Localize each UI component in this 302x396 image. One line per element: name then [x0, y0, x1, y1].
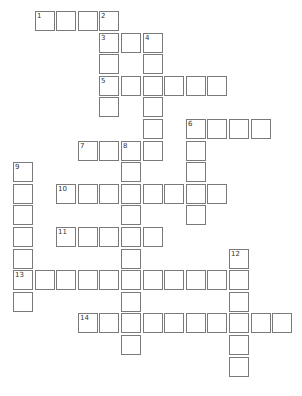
crossword-cell[interactable]	[164, 184, 184, 204]
clue-number: 4	[145, 34, 149, 42]
crossword-cell[interactable]	[13, 249, 33, 269]
crossword-cell[interactable]	[143, 184, 163, 204]
crossword-cell[interactable]	[56, 11, 76, 31]
crossword-cell[interactable]	[251, 119, 271, 139]
crossword-cell[interactable]	[207, 119, 227, 139]
crossword-cell[interactable]	[229, 119, 249, 139]
crossword-cell[interactable]	[143, 97, 163, 117]
clue-number: 14	[80, 314, 89, 322]
crossword-cell[interactable]	[99, 227, 119, 247]
clue-number: 3	[101, 34, 105, 42]
crossword-cell[interactable]: 3	[99, 33, 119, 53]
crossword-cell[interactable]	[186, 270, 206, 290]
crossword-cell[interactable]	[143, 54, 163, 74]
clue-number: 2	[101, 12, 105, 20]
crossword-cell[interactable]	[13, 292, 33, 312]
crossword-cell[interactable]	[164, 313, 184, 333]
crossword-cell[interactable]	[56, 270, 76, 290]
crossword-cell[interactable]	[143, 227, 163, 247]
crossword-cell[interactable]	[121, 270, 141, 290]
clue-number: 5	[101, 77, 105, 85]
crossword-cell[interactable]	[186, 141, 206, 161]
crossword-cell[interactable]	[164, 76, 184, 96]
crossword-cell[interactable]	[143, 141, 163, 161]
crossword-cell[interactable]	[121, 162, 141, 182]
crossword-cell[interactable]	[99, 184, 119, 204]
crossword-cell[interactable]: 4	[143, 33, 163, 53]
crossword-cell[interactable]	[99, 141, 119, 161]
crossword-cell[interactable]: 1	[35, 11, 55, 31]
crossword-cell[interactable]	[143, 119, 163, 139]
clue-number: 6	[188, 120, 192, 128]
crossword-cell[interactable]	[121, 76, 141, 96]
crossword-cell[interactable]: 2	[99, 11, 119, 31]
crossword-cell[interactable]: 10	[56, 184, 76, 204]
crossword-cell[interactable]	[229, 313, 249, 333]
crossword-cell[interactable]	[121, 313, 141, 333]
crossword-cell[interactable]	[99, 270, 119, 290]
crossword-cell[interactable]	[143, 270, 163, 290]
clue-number: 7	[80, 142, 84, 150]
crossword-grid: 1234567891011121314	[0, 0, 302, 396]
crossword-cell[interactable]	[121, 292, 141, 312]
crossword-cell[interactable]	[229, 292, 249, 312]
crossword-cell[interactable]	[207, 313, 227, 333]
clue-number: 12	[231, 250, 240, 258]
crossword-cell[interactable]	[121, 33, 141, 53]
crossword-cell[interactable]	[78, 227, 98, 247]
crossword-cell[interactable]: 13	[13, 270, 33, 290]
crossword-cell[interactable]	[121, 205, 141, 225]
crossword-cell[interactable]	[186, 162, 206, 182]
clue-number: 1	[37, 12, 41, 20]
crossword-cell[interactable]	[186, 205, 206, 225]
crossword-cell[interactable]	[186, 76, 206, 96]
crossword-cell[interactable]: 11	[56, 227, 76, 247]
crossword-cell[interactable]: 12	[229, 249, 249, 269]
crossword-cell[interactable]	[251, 313, 271, 333]
crossword-cell[interactable]: 6	[186, 119, 206, 139]
crossword-cell[interactable]	[272, 313, 292, 333]
crossword-cell[interactable]	[229, 270, 249, 290]
clue-number: 9	[15, 163, 19, 171]
crossword-cell[interactable]	[13, 205, 33, 225]
crossword-cell[interactable]	[186, 184, 206, 204]
crossword-cell[interactable]: 7	[78, 141, 98, 161]
crossword-cell[interactable]	[35, 270, 55, 290]
crossword-cell[interactable]	[13, 184, 33, 204]
crossword-cell[interactable]	[99, 97, 119, 117]
crossword-cell[interactable]	[121, 335, 141, 355]
crossword-cell[interactable]	[207, 76, 227, 96]
crossword-cell[interactable]	[164, 270, 184, 290]
crossword-cell[interactable]: 9	[13, 162, 33, 182]
crossword-cell[interactable]	[99, 54, 119, 74]
crossword-cell[interactable]	[143, 76, 163, 96]
crossword-cell[interactable]: 5	[99, 76, 119, 96]
crossword-cell[interactable]	[78, 11, 98, 31]
crossword-cell[interactable]	[143, 313, 163, 333]
crossword-cell[interactable]	[99, 313, 119, 333]
crossword-cell[interactable]	[78, 270, 98, 290]
crossword-cell[interactable]: 8	[121, 141, 141, 161]
clue-number: 8	[123, 142, 127, 150]
crossword-cell[interactable]	[78, 184, 98, 204]
clue-number: 10	[58, 185, 67, 193]
crossword-cell[interactable]	[207, 184, 227, 204]
clue-number: 11	[58, 228, 67, 236]
crossword-cell[interactable]	[229, 335, 249, 355]
crossword-cell[interactable]	[121, 184, 141, 204]
crossword-cell[interactable]	[207, 270, 227, 290]
crossword-cell[interactable]	[186, 313, 206, 333]
crossword-cell[interactable]	[121, 227, 141, 247]
crossword-cell[interactable]	[229, 357, 249, 377]
clue-number: 13	[15, 271, 24, 279]
crossword-cell[interactable]: 14	[78, 313, 98, 333]
crossword-cell[interactable]	[13, 227, 33, 247]
crossword-cell[interactable]	[121, 249, 141, 269]
